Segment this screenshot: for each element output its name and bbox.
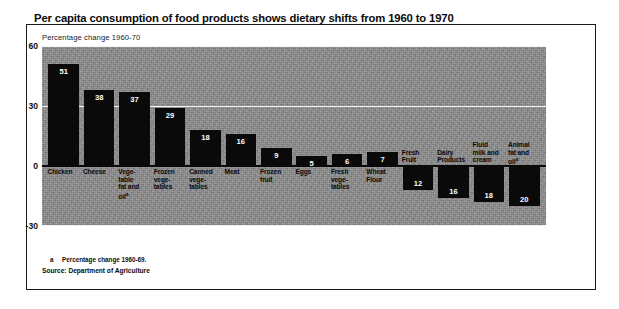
bar-value-3: 29	[155, 111, 185, 120]
chart-figure: Per capita consumption of food products …	[0, 0, 619, 309]
bar-value-4: 18	[190, 133, 220, 142]
bar-value-2: 37	[119, 95, 149, 104]
bar-value-1: 38	[84, 93, 114, 102]
bar-value-12: 18	[474, 191, 504, 200]
y-axis-tick-60: 60	[28, 41, 38, 51]
plot-area: 60300-3051Chicken38Cheese37Vege-tablefat…	[42, 46, 546, 226]
bar-0	[48, 64, 78, 166]
bar-value-6: 9	[261, 151, 291, 160]
source-text: Source: Department of Agriculture	[42, 267, 150, 274]
bar-value-9: 7	[367, 155, 397, 164]
bar-value-0: 51	[48, 67, 78, 76]
zero-axis-line	[42, 165, 546, 167]
gridline-60	[42, 46, 546, 47]
bar-value-5: 16	[226, 137, 256, 146]
gridline-30	[42, 106, 546, 107]
bar-value-7: 5	[296, 159, 326, 168]
y-axis-tick-30: 30	[28, 101, 38, 111]
gridline--30	[42, 225, 546, 226]
y-axis-tick-0: 0	[33, 161, 38, 171]
chart-title: Per capita consumption of food products …	[34, 12, 564, 24]
bar-value-10: 12	[403, 179, 433, 188]
bar-label-13: Animalfat andoila	[508, 141, 549, 166]
footnote-marker: a	[50, 256, 54, 263]
y-axis-tick--30: -30	[26, 221, 38, 231]
bar-value-8: 6	[332, 157, 362, 166]
bar-label-9: WheatFlour	[366, 168, 407, 183]
chart-subtitle: Percentage change 1960-70	[42, 33, 140, 42]
bar-value-13: 20	[509, 195, 539, 204]
footnote-text: Percentage change 1960-69.	[62, 256, 146, 263]
bar-value-11: 16	[438, 187, 468, 196]
